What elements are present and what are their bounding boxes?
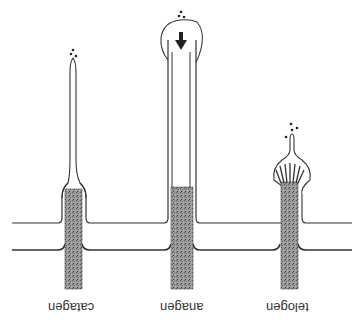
telogen-follicle bbox=[274, 123, 311, 289]
anagen-hair-shaft bbox=[171, 187, 193, 289]
catagen-hair-shaft bbox=[65, 189, 82, 289]
arrow-down-icon bbox=[175, 32, 187, 50]
label-catagen: catagen bbox=[48, 300, 94, 315]
catagen-follicle bbox=[62, 49, 86, 289]
hair-cycle-diagram bbox=[0, 0, 364, 325]
label-anagen: anagen bbox=[160, 300, 203, 315]
club-hair-brush bbox=[276, 163, 304, 183]
label-telogen: telogen bbox=[266, 300, 309, 315]
telogen-hair-shaft bbox=[281, 182, 298, 289]
